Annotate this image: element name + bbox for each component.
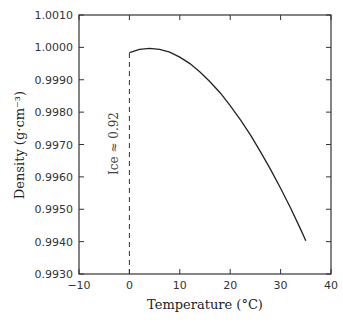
tick-labels: −100102030400.99300.99400.99500.99600.99… [35, 9, 339, 292]
tick-label: 0.9970 [35, 139, 74, 152]
tick-label: 1.0000 [35, 41, 74, 54]
tick-label: 30 [274, 279, 288, 292]
density-curve [129, 48, 305, 240]
tick-label: 0.9930 [35, 268, 74, 281]
tick-label: 20 [223, 279, 237, 292]
tick-label: 0.9960 [35, 171, 74, 184]
tick-label: 10 [173, 279, 187, 292]
y-axis-label: Density (g·cm⁻³) [12, 91, 27, 199]
density-chart: −100102030400.99300.99400.99500.99600.99… [0, 0, 343, 323]
tick-label: 0 [126, 279, 133, 292]
tick-label: 40 [324, 279, 338, 292]
tick-label: 0.9940 [35, 236, 74, 249]
tick-label: 0.9980 [35, 106, 74, 119]
tick-label: 1.0010 [35, 9, 74, 22]
x-axis-label: Temperature (°C) [147, 297, 263, 312]
tick-label: 0.9990 [35, 74, 74, 87]
tick-label: 0.9950 [35, 203, 74, 216]
ice-annotation: Ice ≈ 0.92 [107, 112, 121, 175]
